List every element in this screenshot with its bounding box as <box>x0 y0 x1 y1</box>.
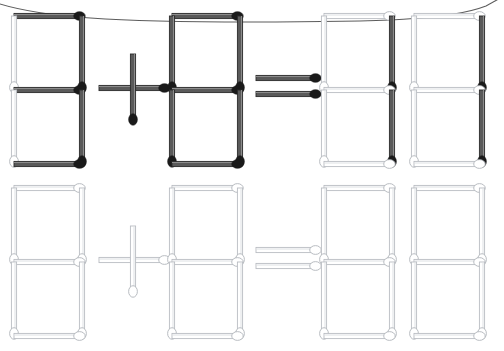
segment-bottom-left[interactable] <box>410 90 419 167</box>
segment-top[interactable] <box>324 184 395 193</box>
segment-bottom-left[interactable] <box>10 90 19 167</box>
segment-bottom[interactable] <box>172 332 243 341</box>
match-stick-body <box>414 87 478 92</box>
top-digit-4[interactable] <box>410 12 487 169</box>
segment-bottom-left[interactable] <box>320 90 329 167</box>
segment-bottom-right[interactable] <box>78 90 87 167</box>
top-digit-1[interactable] <box>10 12 87 169</box>
segment-bottom-right[interactable] <box>388 90 397 167</box>
segment-middle[interactable] <box>324 258 395 267</box>
top-digit-3[interactable] <box>320 12 397 169</box>
top-operator-equals[interactable] <box>256 74 321 99</box>
match-stick-body <box>169 188 174 258</box>
equals-upper-match[interactable] <box>256 74 321 83</box>
equation-row-row-bottom <box>10 184 487 341</box>
segment-top-left[interactable] <box>410 16 419 93</box>
segment-top-left[interactable] <box>320 16 329 93</box>
segment-bottom-left[interactable] <box>320 262 329 339</box>
segment-top-right[interactable] <box>78 16 87 93</box>
segment-bottom-right[interactable] <box>478 262 487 339</box>
match-stick-body <box>130 226 135 290</box>
segment-top[interactable] <box>172 12 243 21</box>
segment-bottom[interactable] <box>324 332 395 341</box>
segment-top-left[interactable] <box>410 188 419 265</box>
segment-top-right[interactable] <box>236 16 245 93</box>
match-head <box>310 262 322 271</box>
segment-top-right[interactable] <box>478 16 487 93</box>
segment-middle[interactable] <box>414 258 485 267</box>
segment-middle[interactable] <box>14 258 85 267</box>
segment-bottom-right[interactable] <box>236 262 245 339</box>
segment-bottom-right[interactable] <box>478 90 487 167</box>
bottom-operator-equals[interactable] <box>256 246 321 271</box>
segment-middle[interactable] <box>324 86 395 95</box>
match-stick-body <box>172 333 236 338</box>
match-stick-body <box>324 185 388 190</box>
match-stick-body <box>411 188 416 258</box>
top-digit-2[interactable] <box>168 12 245 169</box>
segment-bottom[interactable] <box>14 160 85 169</box>
match-head <box>232 160 244 169</box>
segment-bottom-right[interactable] <box>236 90 245 167</box>
equals-upper-match[interactable] <box>256 246 321 255</box>
segment-top-left[interactable] <box>320 188 329 265</box>
segment-top[interactable] <box>414 12 485 21</box>
match-stick-body <box>321 188 326 258</box>
segment-top-left[interactable] <box>10 188 19 265</box>
match-stick-body <box>11 16 16 86</box>
segment-bottom-right[interactable] <box>388 262 397 339</box>
segment-top[interactable] <box>14 12 85 21</box>
match-stick-body <box>479 188 484 258</box>
segment-top-right[interactable] <box>236 188 245 265</box>
segment-bottom[interactable] <box>172 160 243 169</box>
segment-top-right[interactable] <box>78 188 87 265</box>
segment-top[interactable] <box>324 12 395 21</box>
match-head <box>474 332 486 341</box>
bottom-digit-4[interactable] <box>410 184 487 341</box>
segment-bottom[interactable] <box>14 332 85 341</box>
segment-bottom-left[interactable] <box>168 90 177 167</box>
match-stick-body <box>324 259 388 264</box>
matchstick-board <box>0 0 504 351</box>
segment-bottom[interactable] <box>414 332 485 341</box>
segment-bottom[interactable] <box>324 160 395 169</box>
segment-top[interactable] <box>14 184 85 193</box>
match-stick-body <box>321 16 326 86</box>
match-stick-body <box>414 333 478 338</box>
segment-bottom-left[interactable] <box>10 262 19 339</box>
match-stick-body <box>479 262 484 332</box>
match-stick-body <box>414 13 478 18</box>
equals-lower-match[interactable] <box>256 262 321 271</box>
match-stick-body <box>237 262 242 332</box>
bottom-digit-1[interactable] <box>10 184 87 341</box>
match-stick-body <box>414 185 478 190</box>
equation-row-row-top <box>10 12 487 169</box>
segment-middle[interactable] <box>414 86 485 95</box>
segment-top-left[interactable] <box>10 16 19 93</box>
segment-bottom-left[interactable] <box>410 262 419 339</box>
segment-top-left[interactable] <box>168 16 177 93</box>
match-head <box>74 332 86 341</box>
match-stick-body <box>411 262 416 332</box>
equals-lower-match[interactable] <box>256 90 321 99</box>
match-stick-body <box>389 262 394 332</box>
bottom-digit-3[interactable] <box>320 184 397 341</box>
segment-top[interactable] <box>172 184 243 193</box>
segment-bottom-right[interactable] <box>78 262 87 339</box>
segment-top-right[interactable] <box>478 188 487 265</box>
segment-bottom-left[interactable] <box>168 262 177 339</box>
segment-middle[interactable] <box>172 258 243 267</box>
segment-middle[interactable] <box>172 86 243 95</box>
segment-bottom[interactable] <box>414 160 485 169</box>
segment-top-right[interactable] <box>388 188 397 265</box>
top-operator-plus[interactable] <box>99 54 170 125</box>
segment-middle[interactable] <box>14 86 85 95</box>
segment-top[interactable] <box>414 184 485 193</box>
bottom-digit-2[interactable] <box>168 184 245 341</box>
segment-top-left[interactable] <box>168 188 177 265</box>
bottom-operator-plus[interactable] <box>99 226 170 297</box>
segment-top-right[interactable] <box>388 16 397 93</box>
match-stick-body <box>256 263 314 268</box>
match-stick-body <box>324 161 388 166</box>
match-head <box>129 286 138 298</box>
